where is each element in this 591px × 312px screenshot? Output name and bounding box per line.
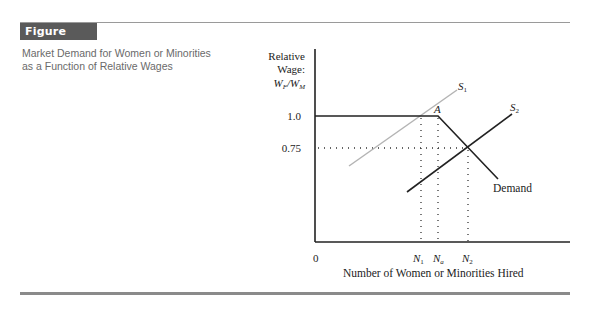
origin-label: 0 <box>313 252 319 264</box>
s2-curve <box>407 114 512 192</box>
s1-label: S1 <box>458 80 468 94</box>
x-tick-n1: N1 <box>412 252 424 266</box>
y-label-line-2: Wage: <box>277 63 305 75</box>
bottom-rule <box>20 292 570 295</box>
demand-label: Demand <box>493 182 532 194</box>
s2-label: S2 <box>510 101 520 115</box>
x-axis-label: Number of Women or Minorities Hired <box>343 267 524 279</box>
y-label-line-1: Relative <box>268 50 305 62</box>
x-tick-na: Na <box>432 252 444 266</box>
y-tick-1.0: 1.0 <box>287 110 301 122</box>
y-label-line-3: WF/WM <box>273 77 306 91</box>
s1-curve <box>349 90 457 166</box>
point-a-label: A <box>433 103 441 115</box>
y-tick-0.75: 0.75 <box>282 142 302 154</box>
chart: Relative Wage: WF/WM 1.0 0.75 0 N1 Na N2… <box>0 0 591 312</box>
x-tick-n2: N2 <box>461 252 473 266</box>
